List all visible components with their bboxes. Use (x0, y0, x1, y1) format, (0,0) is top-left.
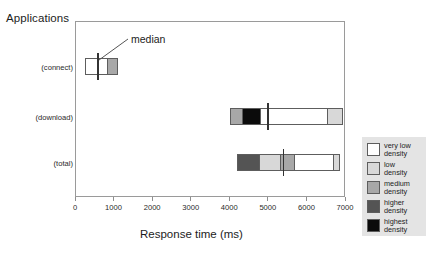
boxplot-segment (237, 154, 259, 171)
legend-label: medium density (384, 180, 410, 196)
x-axis-label: Response time (ms) (140, 228, 243, 240)
x-axis-tick-mark (267, 197, 268, 201)
boxplot-segment (327, 108, 343, 125)
boxplot-bar (85, 58, 119, 75)
x-axis-tick-label: 7000 (337, 203, 354, 212)
boxplot-bar (230, 108, 343, 125)
x-axis-tick-label: 5000 (259, 203, 276, 212)
y-axis-tick-label-total: (total) (1, 159, 73, 168)
x-axis-tick-mark (113, 197, 114, 201)
x-axis-tick-mark (152, 197, 153, 201)
x-axis-tick-label: 1000 (105, 203, 122, 212)
legend-swatch (367, 219, 380, 232)
y-axis-tick-label-connect: (connect) (1, 63, 73, 72)
boxplot-segment (85, 58, 107, 75)
y-axis-labels: (connect) (download) (total) (0, 0, 73, 268)
legend-label: highest density (384, 218, 408, 234)
legend-label: very low density (384, 142, 411, 158)
legend-item: highest density (367, 218, 423, 235)
median-line (97, 53, 99, 80)
chart-figure: Applications (connect) (download) (total… (0, 0, 428, 268)
legend-item: very low density (367, 142, 423, 159)
boxplot-segment (333, 154, 339, 171)
x-axis-tick-mark (229, 197, 230, 201)
legend-swatch (367, 143, 380, 156)
median-annotation-label: median (131, 33, 165, 45)
boxplot-segment (260, 108, 327, 125)
boxplot-segment (230, 108, 242, 125)
x-axis-tick-label: 3000 (182, 203, 199, 212)
median-line (283, 149, 285, 176)
boxplot-segment (294, 154, 334, 171)
legend-label: higher density (384, 199, 407, 215)
x-axis-tick-mark (306, 197, 307, 201)
x-axis-tick-label: 0 (73, 203, 77, 212)
legend-item: medium density (367, 180, 423, 197)
x-axis-tick-label: 6000 (298, 203, 315, 212)
y-axis-tick-label-download: (download) (1, 113, 73, 122)
median-line (267, 103, 269, 130)
legend-swatch (367, 162, 380, 175)
legend-item: low density (367, 161, 423, 178)
x-axis-tick-mark (75, 197, 76, 201)
x-axis-tick-label: 2000 (144, 203, 161, 212)
boxplot-segment (107, 58, 118, 75)
legend: very low densitylow densitymedium densit… (362, 137, 426, 236)
boxplot-segment (242, 108, 260, 125)
legend-swatch (367, 181, 380, 194)
legend-item: higher density (367, 199, 423, 216)
boxplot-bar (237, 154, 340, 171)
legend-swatch (367, 200, 380, 213)
x-axis-tick-mark (190, 197, 191, 201)
x-axis-tick-label: 4000 (221, 203, 238, 212)
boxplot-segment (259, 154, 280, 171)
legend-label: low density (384, 161, 407, 177)
x-axis-tick-mark (345, 197, 346, 201)
